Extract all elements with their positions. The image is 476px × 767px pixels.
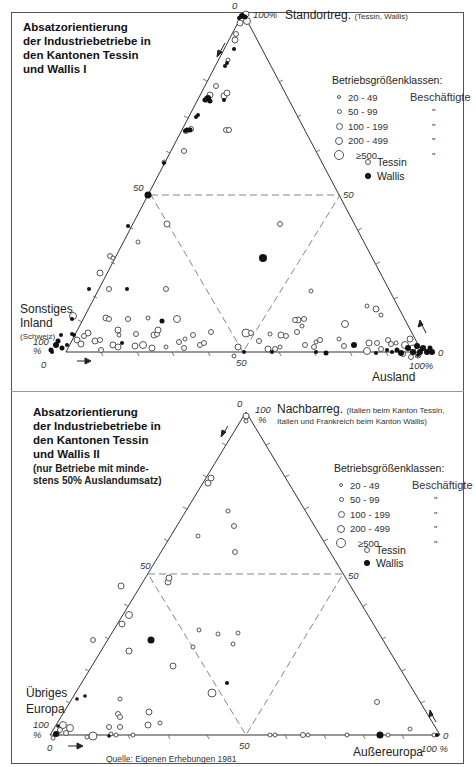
size-class-icon (339, 497, 344, 502)
size-class-icon (337, 109, 342, 114)
left-label-line2-2: Europa (26, 701, 67, 717)
tick-apex-hundred-1: 100% (253, 9, 277, 20)
tick-left-50-1: 50 (133, 182, 144, 193)
size-range: 100 - 199 (350, 509, 412, 520)
legend-row: 200 - 499" (332, 522, 476, 537)
size-class-icon (337, 525, 345, 533)
tick-bottom-50-2: 50 (239, 740, 250, 751)
diagram2-right-label: Außereuropa (353, 745, 423, 759)
size-unit: " (410, 121, 476, 132)
tick-left-50-2: 50 (140, 560, 151, 571)
diagram2-subnote: (nur Betriebe mit minde- stens 50% Ausla… (33, 463, 162, 487)
diagram2-title: Absatzorientierung der Industriebetriebe… (33, 405, 161, 461)
apex-label-text: Standortreg. (285, 8, 351, 22)
size-class-icon (334, 150, 344, 160)
legend2-size-classes: 20 - 49Beschäftigte 50 - 99" 100 - 199" … (332, 478, 476, 551)
diagram1-title: Absatzorientierung der Industriebetriebe… (23, 20, 151, 76)
series-name: Tessin (377, 156, 407, 168)
size-unit: " (410, 135, 476, 146)
tick-right-zero-2: 0 (443, 730, 448, 741)
legend1-title: Betriebsgrößenklassen: (332, 74, 442, 86)
legend1-wallis: Wallis (365, 170, 405, 182)
legend1-tessin: Tessin (365, 156, 407, 168)
legend-row: 20 - 49Beschäftigte (330, 90, 476, 105)
left-label-line1: Sonstiges (20, 302, 73, 316)
size-class-icon (335, 137, 343, 145)
size-unit: Beschäftigte (412, 479, 476, 491)
tick-right-hundred-2: 100 % (421, 743, 448, 754)
source-note: Quelle: Eigenen Erhebungen 1981 (106, 754, 236, 764)
series-name: Wallis (377, 170, 405, 182)
size-unit: " (412, 523, 476, 534)
size-unit: " (410, 150, 476, 161)
legend-row: 20 - 49Beschäftigte (332, 478, 476, 493)
tick-bottom-50-1: 50 (236, 357, 247, 368)
size-unit: " (412, 494, 476, 505)
open-circle-icon (365, 159, 371, 165)
size-range: 200 - 499 (350, 523, 412, 534)
legend2-wallis: Wallis (364, 557, 404, 569)
size-unit: " (412, 509, 476, 520)
diagram2-apex-label: Nachbarreg. (Italien beim Kanton Tessin,… (277, 402, 445, 426)
legend-row: 100 - 199" (330, 119, 476, 134)
size-unit: Beschäftigte (410, 91, 476, 103)
legend2-tessin: Tessin (364, 544, 406, 556)
legend-row: 200 - 499" (330, 134, 476, 149)
size-range: 50 - 99 (350, 494, 412, 505)
tick-right-zero-1: 0 (438, 347, 443, 358)
diagram1-apex-label: Standortreg. (Tessin, Wallis) (285, 8, 408, 22)
series-name: Tessin (376, 544, 406, 556)
open-circle-icon (364, 547, 370, 553)
legend-row: 50 - 99" (332, 493, 476, 508)
size-range: 20 - 49 (348, 92, 410, 103)
filled-circle-icon (364, 560, 370, 566)
size-class-icon (338, 511, 345, 518)
tick-left-zero-1: 0 (41, 359, 46, 370)
series-name: Wallis (376, 557, 404, 569)
apex-sublabel-text: (Tessin, Wallis) (354, 12, 407, 21)
tick-left-pct-2: % (33, 729, 41, 740)
apex-sublabel-line1-2: (Italien beim Kanton Tessin, (346, 406, 444, 415)
legend-row: 100 - 199" (332, 507, 476, 522)
tick-apex-zero-2: 0 (237, 398, 242, 409)
legend-row: 50 - 99" (330, 105, 476, 120)
size-unit: " (410, 106, 476, 117)
size-unit: " (412, 538, 476, 549)
size-class-icon (336, 123, 343, 130)
tick-right-50-2: 50 (348, 570, 359, 581)
size-class-icon (339, 483, 343, 487)
size-class-icon (337, 95, 341, 99)
legend1-size-classes: 20 - 49Beschäftigte 50 - 99" 100 - 199" … (330, 90, 476, 163)
diagram2-left-label: Übriges Europa (26, 685, 67, 717)
legend2-title: Betriebsgrößenklassen: (334, 462, 444, 474)
apex-sublabel-line2-2: Italien und Frankreich beim Kanton Walli… (277, 417, 445, 426)
diagram1-right-label: Ausland (372, 370, 415, 384)
tick-apex-pct-2: % (258, 414, 266, 425)
left-label-line2: Inland (20, 316, 73, 330)
tick-right-50-1: 50 (343, 189, 354, 200)
size-range: 20 - 49 (350, 480, 412, 491)
size-range: 50 - 99 (348, 106, 410, 117)
filled-circle-icon (365, 173, 371, 179)
tick-right-hundred-1: 100% (409, 360, 433, 371)
size-range: 200 - 499 (348, 135, 410, 146)
size-range: 100 - 199 (348, 121, 410, 132)
series-wallis-2 (53, 637, 439, 739)
tick-apex-zero-1: 0 (232, 0, 237, 11)
tick-left-zero-2: 0 (47, 742, 52, 753)
left-label-line1-2: Übriges (26, 685, 67, 701)
apex-label-text-2: Nachbarreg. (277, 402, 343, 416)
tick-left-pct-1: % (33, 345, 41, 356)
size-class-icon (336, 538, 346, 548)
